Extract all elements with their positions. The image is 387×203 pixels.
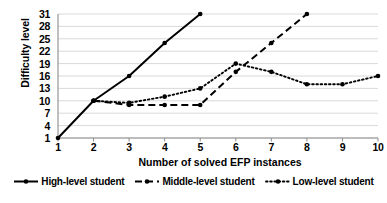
x-tick-label: 2 (81, 142, 107, 153)
x-tick-label: 4 (152, 142, 178, 153)
axis-lines (58, 14, 378, 142)
data-point (233, 70, 238, 75)
legend-item[interactable]: High-level student (13, 176, 124, 187)
data-point (91, 99, 96, 104)
series-dotted (91, 61, 380, 105)
data-point (198, 12, 203, 17)
x-axis-title: Number of solved EFP instances (55, 156, 385, 168)
data-point (305, 82, 310, 87)
x-tick-label: 7 (258, 142, 284, 153)
legend-swatch-dashed-icon (134, 177, 160, 186)
data-point (233, 61, 238, 66)
data-point (269, 41, 274, 46)
x-axis-tick-labels: 12345678910 (0, 142, 387, 156)
data-point (162, 103, 167, 108)
x-tick-label: 8 (294, 142, 320, 153)
data-point (269, 70, 274, 75)
legend-swatch-solid-icon (13, 177, 39, 186)
x-tick-label: 6 (223, 142, 249, 153)
x-tick-label: 10 (365, 142, 387, 153)
legend-label: Middle-level student (162, 176, 254, 187)
plot-area (0, 0, 387, 203)
chart-legend: High-level studentMiddle-level studentLo… (0, 176, 387, 187)
data-point (340, 82, 345, 87)
data-point (198, 103, 203, 108)
x-tick-label: 9 (329, 142, 355, 153)
data-point (305, 12, 310, 17)
data-point (162, 41, 167, 46)
legend-item[interactable]: Low-level student (265, 176, 374, 187)
data-point (198, 86, 203, 91)
x-tick-label: 3 (116, 142, 142, 153)
legend-item[interactable]: Middle-level student (134, 176, 254, 187)
x-tick-label: 5 (187, 142, 213, 153)
data-point (56, 136, 61, 141)
chart-container: Difficulty level 1471013161922252831 123… (0, 0, 387, 203)
legend-label: Low-level student (293, 176, 374, 187)
legend-swatch-dotted-icon (265, 177, 291, 186)
data-point (127, 101, 132, 106)
x-tick-label: 1 (45, 142, 71, 153)
data-point (162, 94, 167, 99)
data-point (376, 74, 381, 79)
legend-label: High-level student (41, 176, 124, 187)
series-line (94, 14, 307, 105)
data-point (127, 74, 132, 79)
